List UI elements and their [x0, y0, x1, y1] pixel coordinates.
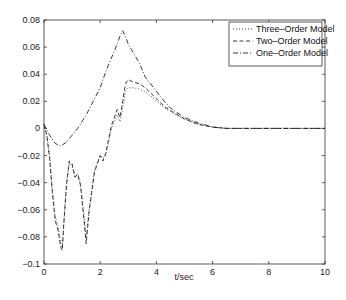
x-tick-label: 8: [266, 267, 271, 277]
x-tick-label: 0: [41, 267, 46, 277]
legend-label: One–Order Model: [256, 48, 328, 58]
y-tick-label: −0.06: [17, 205, 40, 215]
y-tick-label: −0.08: [17, 232, 40, 242]
x-axis-label: t/sec: [174, 272, 194, 282]
y-tick-label: −0.1: [22, 259, 40, 269]
x-tick-label: 6: [210, 267, 215, 277]
legend: Three–Order ModelTwo–Order ModelOne–Orde…: [229, 22, 335, 66]
x-tick-label: 10: [320, 267, 330, 277]
y-tick-label: −0.04: [17, 178, 40, 188]
y-tick-label: 0.06: [22, 42, 40, 52]
legend-label: Three–Order Model: [256, 24, 335, 34]
x-tick-label: 4: [154, 267, 159, 277]
line-chart: 0246810 0.080.060.040.020−0.02−0.04−0.06…: [0, 0, 346, 300]
y-tick-label: 0.08: [22, 15, 40, 25]
y-tick-label: −0.02: [17, 151, 40, 161]
x-tick-label: 2: [98, 267, 103, 277]
legend-label: Two–Order Model: [256, 36, 328, 46]
y-tick-label: 0.02: [22, 96, 40, 106]
y-tick-label: 0.04: [22, 69, 40, 79]
y-tick-label: 0: [35, 123, 40, 133]
series-two-order-model: [44, 80, 325, 251]
series-three-order-model: [44, 88, 325, 248]
